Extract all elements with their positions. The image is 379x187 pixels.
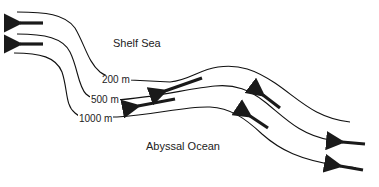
arrow-icon-right-lower [340, 166, 363, 170]
abyssal-ocean-label: Abyssal Ocean [146, 141, 220, 152]
depth-label-200m: 200 m [101, 75, 131, 85]
arrow-icon-right-upper [342, 142, 365, 144]
contour-500m [17, 34, 360, 144]
contour-diagram-svg [0, 0, 379, 187]
arrow-icon-slope-upper [263, 95, 280, 108]
arrow-icon-center-upper [165, 78, 202, 91]
shelf-sea-label: Shelf Sea [113, 38, 161, 49]
depth-label-1000m: 1000 m [78, 114, 113, 124]
slope-current-diagram: Shelf Sea Abyssal Ocean 200 m 500 m 1000… [0, 0, 379, 187]
depth-label-500m: 500 m [90, 95, 120, 105]
arrow-icon-center-lower [138, 99, 175, 106]
contour-200m [17, 12, 350, 122]
